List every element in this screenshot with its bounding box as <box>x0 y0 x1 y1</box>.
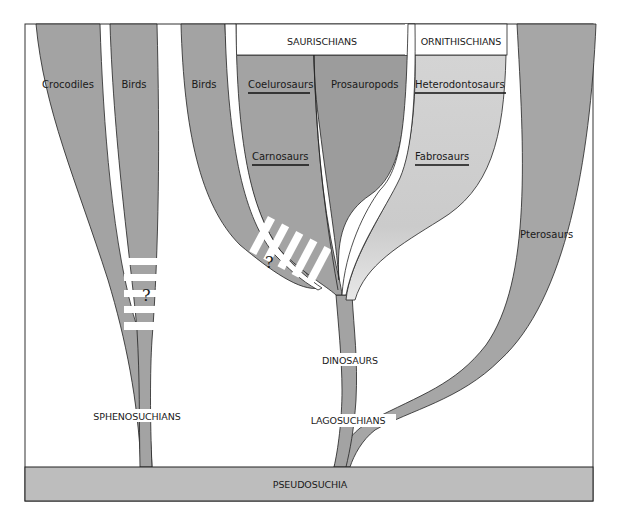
label-birds-left: Birds <box>121 79 146 90</box>
question-mark-left: ? <box>142 286 151 305</box>
label-pterosaurs: Pterosaurs <box>520 229 573 240</box>
label-dinosaurs: DINOSAURS <box>322 355 378 366</box>
label-heterodontosaurs: Heterodontosaurs <box>415 79 505 90</box>
question-mark-middle: ? <box>265 253 274 272</box>
label-birds-middle: Birds <box>191 79 216 90</box>
label-carnosaurs: Carnosaurs <box>252 151 309 162</box>
label-prosauropods: Prosauropods <box>331 79 399 90</box>
label-crocodiles: Crocodiles <box>42 79 94 90</box>
label-saurischians: SAURISCHIANS <box>287 36 357 47</box>
label-fabrosaurs: Fabrosaurs <box>415 151 469 162</box>
label-sphenosuchians: SPHENOSUCHIANS <box>93 411 180 422</box>
label-coelurosaurs: Coelurosaurs <box>248 79 313 90</box>
dinosaur-phylogeny-diagram: ? ? SAURISCHIANS ORNITHISCHIANS Crocodil… <box>0 0 628 522</box>
label-lagosuchians: LAGOSUCHIANS <box>311 415 386 426</box>
label-ornithischians: ORNITHISCHIANS <box>421 36 502 47</box>
label-pseudosuchia: PSEUDOSUCHIA <box>273 479 348 490</box>
